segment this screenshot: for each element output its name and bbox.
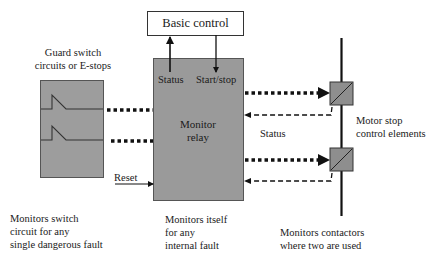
switch-contact-icon	[41, 95, 103, 140]
upper-contactor-icon	[330, 82, 353, 105]
contactor-status-feedback	[244, 107, 332, 184]
connections-layer	[0, 0, 440, 262]
guard-relay-dotted-links	[107, 110, 153, 141]
lower-contactor-icon	[330, 148, 353, 171]
relay-contactor-control-arrows	[245, 87, 330, 166]
